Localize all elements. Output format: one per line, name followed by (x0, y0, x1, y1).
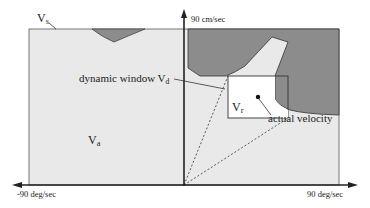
va-label: Va (88, 134, 100, 149)
x-axis-right-arrow-icon (348, 182, 358, 188)
x-axis-max-label: 90 deg/sec (307, 190, 343, 199)
y-axis-arrow-icon (181, 9, 187, 18)
x-axis-left-arrow-icon (12, 182, 22, 188)
actual-velocity-dot (256, 95, 260, 99)
x-axis-min-label: -90 deg/sec (17, 190, 56, 199)
actual-velocity-label: actual velocity (268, 113, 332, 124)
vr-label: Vr (232, 101, 243, 116)
velocity-space-diagram (0, 0, 370, 208)
vs-pointer (49, 23, 56, 29)
dynamic-window-label: dynamic window Vd (79, 73, 169, 86)
vs-label: Vs (37, 12, 49, 27)
y-axis-max-label: 90 cm/sec (191, 15, 225, 24)
